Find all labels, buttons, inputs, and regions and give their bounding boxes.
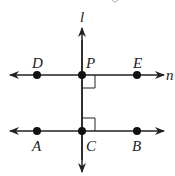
label-a: A	[31, 138, 42, 154]
label-b: B	[132, 138, 141, 154]
line-n-label: n	[166, 67, 174, 83]
point-a	[33, 127, 41, 135]
cropped-text-fragment	[112, 0, 118, 2]
label-p: P	[85, 55, 95, 71]
label-c: C	[86, 138, 97, 154]
point-d	[33, 71, 41, 79]
point-b	[133, 127, 141, 135]
point-p	[78, 71, 86, 79]
point-e	[133, 71, 141, 79]
point-c	[78, 127, 86, 135]
label-e: E	[132, 55, 142, 71]
label-d: D	[31, 55, 43, 71]
geometry-diagram: l n D P E A C B	[0, 0, 175, 176]
line-l-label: l	[80, 9, 84, 25]
